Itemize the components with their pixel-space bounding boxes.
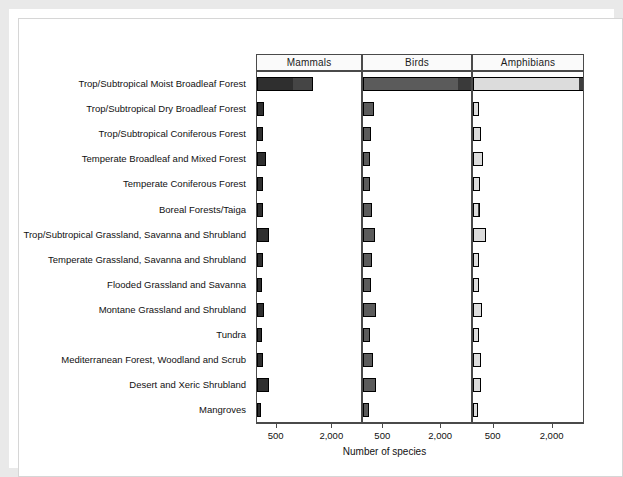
category-label: Trop/Subtropical Grassland, Savanna and … xyxy=(23,222,246,247)
bar-row xyxy=(473,223,583,248)
bar-row xyxy=(363,398,471,423)
bar-segment-secondary xyxy=(458,78,472,90)
bar xyxy=(257,228,269,242)
bar-row xyxy=(473,248,583,273)
bar xyxy=(363,127,371,141)
bar-segment-primary xyxy=(364,279,370,291)
bar-row xyxy=(257,72,361,97)
panel-mammals xyxy=(256,71,362,423)
bar-row xyxy=(363,97,471,122)
bar xyxy=(363,303,376,317)
bar-row xyxy=(473,198,583,223)
category-axis-labels: Trop/Subtropical Moist Broadleaf ForestT… xyxy=(19,71,252,423)
bar xyxy=(473,253,479,267)
bar-segment-primary xyxy=(364,229,374,241)
bar-segment-primary xyxy=(258,354,262,366)
x-axis-tick xyxy=(493,423,494,428)
bar-row xyxy=(257,273,361,298)
facet-strip-amphibians: Amphibians xyxy=(472,54,584,71)
bar xyxy=(473,203,480,217)
bar-segment-primary xyxy=(364,128,370,140)
bar xyxy=(473,127,481,141)
bar-segment-primary xyxy=(258,204,262,216)
bar xyxy=(257,152,266,166)
x-axis-title-text: Number of species xyxy=(343,446,426,457)
bar-row xyxy=(257,248,361,273)
bar xyxy=(473,303,482,317)
bar xyxy=(363,77,472,91)
bar-row xyxy=(257,223,361,248)
page-frame: MammalsBirdsAmphibians Trop/Subtropical … xyxy=(0,0,623,477)
bar-segment-primary xyxy=(364,103,373,115)
bar-row xyxy=(257,172,361,197)
bar-row xyxy=(363,72,471,97)
category-label: Mangroves xyxy=(199,397,246,422)
bar-segment-primary xyxy=(474,354,480,366)
x-axis-tick-label: 500 xyxy=(268,430,284,441)
x-axis-tick-label: 2,000 xyxy=(319,430,343,441)
category-label: Flooded Grassland and Savanna xyxy=(107,272,246,297)
panel-amphibians xyxy=(472,71,584,423)
bar-row xyxy=(363,248,471,273)
bar xyxy=(473,278,479,292)
bar-row xyxy=(473,172,583,197)
bar-row xyxy=(257,298,361,323)
bar-segment-primary xyxy=(474,78,579,90)
bar-segment-secondary xyxy=(293,78,312,90)
bar-row xyxy=(257,348,361,373)
bar xyxy=(257,403,261,417)
bar xyxy=(257,378,269,392)
bar-segment-primary xyxy=(258,153,265,165)
facet-strip-birds: Birds xyxy=(362,54,472,71)
bar xyxy=(257,203,263,217)
bar-row xyxy=(473,373,583,398)
category-label: Boreal Forests/Taiga xyxy=(159,197,246,222)
x-axis-line xyxy=(362,423,472,424)
bar-segment-primary xyxy=(474,379,480,391)
bar xyxy=(257,303,264,317)
bar-segment-primary xyxy=(258,329,261,341)
bar-row xyxy=(363,223,471,248)
bar xyxy=(473,152,483,166)
bar-row xyxy=(363,172,471,197)
bar-row xyxy=(257,97,361,122)
bar xyxy=(363,152,370,166)
bar-row xyxy=(257,373,361,398)
x-axis-tick xyxy=(552,423,553,428)
bar-row xyxy=(363,298,471,323)
bar-row xyxy=(363,198,471,223)
bar-segment-primary xyxy=(364,204,371,216)
bar-segment-primary xyxy=(474,178,479,190)
bar-row xyxy=(257,122,361,147)
bar-segment-primary xyxy=(364,379,375,391)
bar xyxy=(363,228,375,242)
bar xyxy=(257,127,263,141)
x-axis-title: Number of species xyxy=(19,446,623,457)
bar-segment-primary xyxy=(474,229,485,241)
bar-segment-primary xyxy=(258,103,263,115)
bar xyxy=(363,102,374,116)
category-label: Mediterranean Forest, Woodland and Scrub xyxy=(61,347,246,372)
bar-segment-primary xyxy=(364,404,368,416)
bar xyxy=(257,177,263,191)
bar-row xyxy=(257,398,361,423)
bar-segment-primary xyxy=(364,329,369,341)
bar-segment-primary xyxy=(258,304,263,316)
bar xyxy=(257,102,264,116)
bar-segment-primary xyxy=(474,329,478,341)
bar xyxy=(473,403,478,417)
x-axis-tick xyxy=(382,423,383,428)
bar xyxy=(473,353,481,367)
bar-segment-primary xyxy=(364,354,372,366)
bar xyxy=(257,77,313,91)
bar-row xyxy=(257,198,361,223)
category-label: Temperate Coniferous Forest xyxy=(123,171,246,196)
bar-segment-primary xyxy=(258,279,261,291)
category-label: Temperate Broadleaf and Mixed Forest xyxy=(82,146,246,171)
bar-segment-secondary xyxy=(579,78,584,90)
bar xyxy=(363,177,370,191)
category-label: Tundra xyxy=(216,322,246,347)
bar xyxy=(257,328,262,342)
bar-row xyxy=(363,373,471,398)
bar-segment-primary xyxy=(258,178,262,190)
